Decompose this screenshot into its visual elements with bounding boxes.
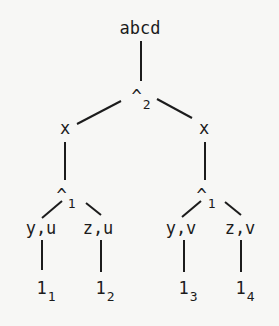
node-meet1-left: ^1 — [56, 187, 75, 210]
meet-operator-label: ^ — [196, 185, 206, 205]
node-zu-label: z,u — [83, 218, 114, 238]
leaf-2: 12 — [95, 280, 114, 303]
leaf-label: 1 — [178, 278, 188, 298]
edge-meet1_left-zu — [86, 203, 101, 215]
node-yu: y,u — [26, 220, 57, 237]
leaf-label: 1 — [36, 278, 46, 298]
node-yu-label: y,u — [26, 218, 57, 238]
node-yv: y,v — [166, 220, 197, 237]
meet-subscript: 1 — [68, 196, 76, 211]
leaf-label: 1 — [235, 278, 245, 298]
node-yv-label: y,v — [166, 218, 197, 238]
node-root-label: abcd — [120, 18, 161, 38]
leaf-subscript: 1 — [48, 289, 56, 304]
meet-operator-label: ^ — [131, 86, 141, 106]
leaf-subscript: 3 — [190, 289, 198, 304]
tree-diagram: abcd ^2 x x ^1 ^1 y,u z,u y,v z,v 11 12 … — [0, 0, 279, 326]
node-meet2: ^2 — [131, 88, 150, 111]
node-x-right: x — [199, 120, 209, 137]
meet-subscript: 1 — [208, 196, 216, 211]
edge-meet2-x_left — [77, 101, 121, 124]
leaf-subscript: 4 — [247, 289, 255, 304]
meet-operator-label: ^ — [56, 185, 66, 205]
node-zu: z,u — [83, 220, 114, 237]
meet-subscript: 2 — [143, 97, 151, 112]
leaf-subscript: 2 — [107, 289, 115, 304]
leaf-label: 1 — [95, 278, 105, 298]
edge-meet1_right-zv — [225, 202, 241, 215]
leaf-4: 14 — [235, 280, 254, 303]
leaf-3: 13 — [178, 280, 197, 303]
node-x-left: x — [60, 120, 70, 137]
leaf-1: 11 — [36, 280, 55, 303]
node-x-left-label: x — [60, 118, 70, 138]
node-x-right-label: x — [199, 118, 209, 138]
edge-meet2-x_right — [157, 99, 192, 118]
node-zv-label: z,v — [225, 218, 256, 238]
node-root: abcd — [120, 20, 161, 37]
node-zv: z,v — [225, 220, 256, 237]
node-meet1-right: ^1 — [196, 187, 215, 210]
